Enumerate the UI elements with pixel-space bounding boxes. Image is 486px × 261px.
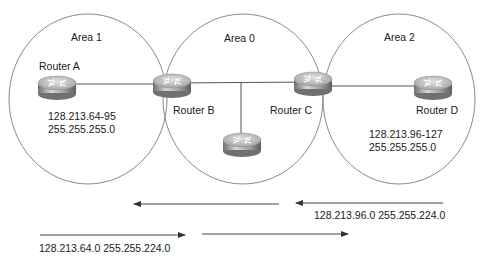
summary-area1-label: 128.213.64.0 255.255.224.0 bbox=[39, 242, 170, 254]
area-2-subnet-mask: 255.255.255.0 bbox=[369, 141, 436, 153]
backbone-router-icon bbox=[223, 133, 261, 157]
router-a-icon bbox=[38, 76, 76, 100]
area-2-label: Area 2 bbox=[384, 31, 415, 43]
link-b-c bbox=[172, 82, 313, 83]
router-b-label: Router B bbox=[173, 104, 214, 116]
router-a-label: Router A bbox=[39, 60, 80, 72]
area-2-subnet-range: 128.213.96-127 bbox=[369, 128, 443, 140]
router-d-icon bbox=[414, 76, 452, 100]
area-1-subnet-range: 128.213.64-95 bbox=[48, 110, 116, 122]
summary-area2-label: 128.213.96.0 255.255.224.0 bbox=[314, 209, 445, 221]
router-c-icon bbox=[294, 72, 332, 96]
router-c-label: Router C bbox=[270, 104, 312, 116]
router-b-icon bbox=[153, 74, 191, 98]
area-1-label: Area 1 bbox=[71, 31, 102, 43]
area-0-label: Area 0 bbox=[224, 32, 255, 44]
area-1-subnet-mask: 255.255.255.0 bbox=[48, 123, 115, 135]
router-d-label: Router D bbox=[416, 104, 458, 116]
